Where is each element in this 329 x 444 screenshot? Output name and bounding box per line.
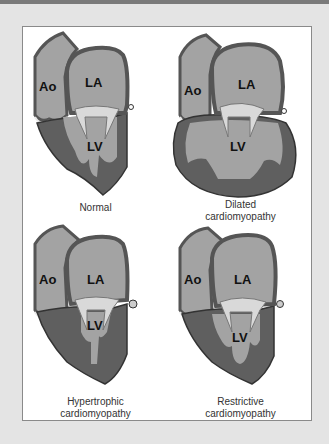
caption-restrictive: Restrictive cardiomyopathy <box>168 396 313 420</box>
heart-normal-illustration: Ao LA LV <box>23 27 168 197</box>
label-lv: LV <box>230 139 246 154</box>
label-lv: LV <box>87 139 103 154</box>
label-la: LA <box>234 272 252 287</box>
figure-panel: Ao LA LV Normal Ao LA LV Dilated cardiom… <box>22 26 312 421</box>
label-ao: Ao <box>184 272 201 287</box>
heart-restrictive-illustration: Ao LA LV <box>168 224 313 394</box>
label-lv: LV <box>232 330 248 345</box>
caption-line: Normal <box>23 202 168 214</box>
caption-line: cardiomyopathy <box>168 211 313 223</box>
caption-normal: Normal <box>23 202 168 214</box>
caption-line: cardiomyopathy <box>168 408 313 420</box>
label-ao: Ao <box>39 79 56 94</box>
label-lv: LV <box>87 318 103 333</box>
label-ao: Ao <box>39 272 56 287</box>
caption-line: cardiomyopathy <box>23 408 168 420</box>
heart-dilated: Ao LA LV Dilated cardiomyopathy <box>168 27 313 224</box>
label-la: LA <box>85 75 103 90</box>
label-la: LA <box>238 77 256 92</box>
heart-hypertrophic: Ao LA LV Hypertrophic cardiomyopathy <box>23 224 168 421</box>
caption-dilated: Dilated cardiomyopathy <box>168 199 313 223</box>
label-la: LA <box>87 272 105 287</box>
heart-dilated-illustration: Ao LA LV <box>168 27 313 202</box>
label-ao: Ao <box>184 83 201 98</box>
caption-line: Hypertrophic <box>23 396 168 408</box>
heart-normal: Ao LA LV Normal <box>23 27 168 224</box>
caption-line: Dilated <box>168 199 313 211</box>
heart-hypertrophic-illustration: Ao LA LV <box>23 224 168 394</box>
top-strip <box>0 0 329 4</box>
caption-line: Restrictive <box>168 396 313 408</box>
caption-hypertrophic: Hypertrophic cardiomyopathy <box>23 396 168 420</box>
heart-restrictive: Ao LA LV Restrictive cardiomyopathy <box>168 224 313 421</box>
